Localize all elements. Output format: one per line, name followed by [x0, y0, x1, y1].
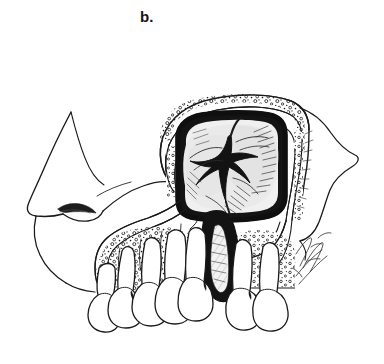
anatomical-illustration — [0, 0, 384, 364]
artist-signature — [292, 233, 331, 284]
maxillary-sinus-opening — [178, 113, 285, 224]
figure-container: b. — [0, 0, 384, 364]
